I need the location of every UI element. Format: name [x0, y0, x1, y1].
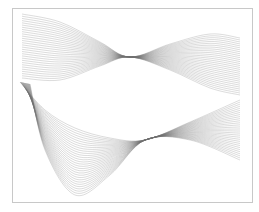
- lower-wave-family: [20, 82, 240, 196]
- plot-area: [0, 0, 259, 212]
- wave-line: [22, 45, 240, 66]
- upper-wave-family: [22, 14, 240, 95]
- wave-line: [22, 16, 240, 57]
- wave-line: [30, 84, 240, 194]
- plot-frame: [13, 9, 253, 203]
- wave-line: [20, 82, 240, 141]
- wave-line: [26, 83, 240, 168]
- wave-line-chart: [0, 0, 259, 212]
- wave-line: [22, 43, 240, 64]
- wave-line: [22, 57, 240, 85]
- wave-line: [22, 40, 240, 61]
- wave-line: [20, 82, 240, 141]
- wave-line: [22, 32, 240, 57]
- wave-line: [22, 57, 240, 91]
- wave-line: [21, 82, 240, 142]
- wave-line: [22, 82, 240, 145]
- wave-line: [22, 57, 240, 93]
- wave-line: [22, 57, 240, 81]
- curve-families: [20, 14, 240, 196]
- wave-line: [21, 82, 240, 143]
- wave-line: [26, 83, 240, 171]
